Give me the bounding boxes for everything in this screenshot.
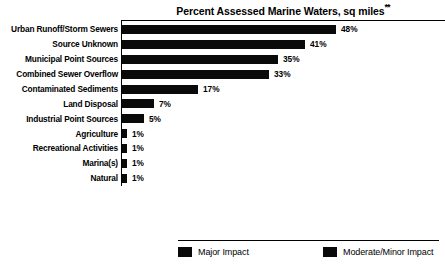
bar-value-label: 1%	[132, 144, 144, 152]
bar-category-label: Recreational Activities	[0, 144, 118, 152]
table-row: Agriculture 1%	[0, 126, 445, 141]
bar-value-label: 1%	[132, 159, 144, 167]
bar-value-label: 5%	[149, 115, 161, 123]
bar-major-impact	[122, 99, 154, 108]
bar-category-label: Contaminated Sediments	[0, 85, 118, 93]
bar-track: 1%	[118, 126, 445, 141]
table-row: Contaminated Sediments 17%	[0, 82, 445, 97]
bar-category-label: Industrial Point Sources	[0, 115, 118, 123]
bar-track: 1%	[118, 156, 445, 171]
bar-chart: Percent Assessed Marine Waters, sq miles…	[0, 0, 445, 264]
bar-track: 5%	[118, 111, 445, 126]
bar-track: 33%	[118, 67, 445, 82]
bar-category-label: Land Disposal	[0, 100, 118, 108]
bar-major-impact	[122, 25, 336, 34]
bar-track: 1%	[118, 171, 445, 186]
table-row: Municipal Point Sources 35%	[0, 52, 445, 67]
bar-major-impact	[122, 114, 144, 123]
bar-track: 1%	[118, 141, 445, 156]
legend-swatch-icon	[178, 247, 192, 257]
bar-category-label: Municipal Point Sources	[0, 55, 118, 63]
bar-track: 41%	[118, 37, 445, 52]
chart-title-footnote-marker: **	[385, 2, 390, 12]
bar-major-impact	[122, 55, 278, 64]
bar-track: 35%	[118, 52, 445, 67]
table-row: Combined Sewer Overflow 33%	[0, 67, 445, 82]
chart-title-text: Percent Assessed Marine Waters, sq miles	[176, 5, 384, 17]
legend-label: Moderate/Minor Impact	[343, 248, 433, 257]
table-row: Source Unknown 41%	[0, 37, 445, 52]
bar-category-label: Urban Runoff/Storm Sewers	[0, 25, 118, 33]
bar-major-impact	[122, 174, 127, 183]
bar-major-impact	[122, 40, 305, 49]
bar-value-label: 17%	[203, 85, 220, 93]
bar-value-label: 35%	[283, 55, 300, 63]
chart-title: Percent Assessed Marine Waters, sq miles…	[121, 2, 445, 17]
legend-label: Major Impact	[198, 248, 249, 257]
bar-major-impact	[122, 144, 127, 153]
bar-value-label: 1%	[132, 130, 144, 138]
bar-major-impact	[122, 129, 127, 138]
legend-swatch-icon	[323, 247, 337, 257]
table-row: Industrial Point Sources 5%	[0, 111, 445, 126]
bar-track: 7%	[118, 96, 445, 111]
bar-value-label: 48%	[341, 25, 358, 33]
table-row: Recreational Activities 1%	[0, 141, 445, 156]
table-row: Natural 1%	[0, 171, 445, 186]
bar-track: 48%	[118, 22, 445, 37]
axis-top-rule	[121, 20, 445, 21]
table-row: Land Disposal 7%	[0, 96, 445, 111]
bar-category-label: Natural	[0, 174, 118, 182]
bar-category-label: Agriculture	[0, 130, 118, 138]
bar-major-impact	[122, 159, 127, 168]
bar-major-impact	[122, 85, 198, 94]
chart-legend: Major Impact Moderate/Minor Impact	[178, 247, 445, 257]
bar-value-label: 33%	[274, 70, 291, 78]
bar-major-impact	[122, 70, 269, 79]
bar-value-label: 1%	[132, 174, 144, 182]
legend-item-moderate-minor-impact: Moderate/Minor Impact	[323, 247, 433, 257]
legend-item-major-impact: Major Impact	[178, 247, 323, 257]
bar-value-label: 7%	[159, 100, 171, 108]
bar-category-label: Marina(s)	[0, 159, 118, 167]
table-row: Urban Runoff/Storm Sewers 48%	[0, 22, 445, 37]
table-row: Marina(s) 1%	[0, 156, 445, 171]
bar-track: 17%	[118, 82, 445, 97]
bar-category-label: Combined Sewer Overflow	[0, 70, 118, 78]
legend-separator-rule	[178, 240, 439, 241]
bar-category-label: Source Unknown	[0, 40, 118, 48]
bar-rows: Urban Runoff/Storm Sewers 48% Source Unk…	[0, 22, 445, 186]
bar-value-label: 41%	[310, 40, 327, 48]
